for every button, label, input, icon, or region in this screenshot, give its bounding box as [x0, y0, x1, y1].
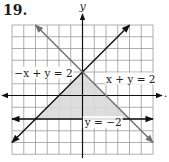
trailing-period: . — [164, 87, 167, 99]
equation-label-1: x + y = 2 — [106, 73, 155, 85]
problem-number: 19. — [3, 2, 27, 18]
equation-label-0: −x + y = 2 — [14, 67, 72, 79]
equation-label-2: y = −2 — [84, 116, 122, 128]
inequality-graph: 19. y −x + y = 2x + y = 2y = −2 . — [0, 0, 169, 162]
y-axis-label: y — [79, 0, 87, 13]
